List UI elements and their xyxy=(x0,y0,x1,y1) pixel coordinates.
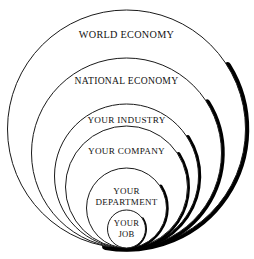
ring-label-line: YOUR INDUSTRY xyxy=(87,115,165,125)
ring-label-line: WORLD ECONOMY xyxy=(79,29,175,40)
ring-label-line: YOUR xyxy=(113,186,140,196)
ring-label-line: YOUR xyxy=(114,218,140,228)
rings-group xyxy=(8,10,246,248)
ring-label-world-economy: WORLD ECONOMY xyxy=(79,29,175,40)
nested-circles-diagram: WORLD ECONOMYNATIONAL ECONOMYYOUR INDUST… xyxy=(0,0,254,259)
ring-label-line: NATIONAL ECONOMY xyxy=(75,75,179,86)
ring-label-line: YOUR COMPANY xyxy=(88,146,165,156)
ring-label-line: JOB xyxy=(118,229,134,239)
nested-circles-canvas: WORLD ECONOMYNATIONAL ECONOMYYOUR INDUST… xyxy=(0,0,254,259)
ring-label-your-company: YOUR COMPANY xyxy=(88,146,165,156)
ring-label-your-industry: YOUR INDUSTRY xyxy=(87,115,165,125)
ring-label-national-economy: NATIONAL ECONOMY xyxy=(75,75,179,86)
ring-label-line: DEPARTMENT xyxy=(95,197,157,207)
